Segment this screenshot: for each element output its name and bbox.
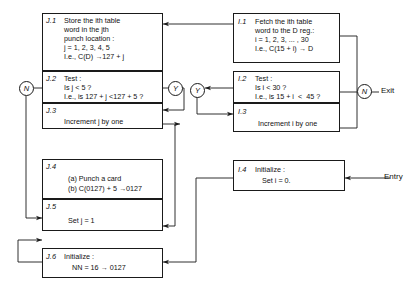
box-i4-line-1: Set i = 0. [262, 176, 291, 185]
box-i3-tag: I.3 [238, 107, 247, 116]
box-j2-tag: J.2 [46, 74, 56, 83]
box-j5-line-0: Set j = 1 [68, 216, 95, 225]
node-n-left: N [19, 81, 34, 96]
box-j2-line-1: Is j < 5 ? [64, 83, 91, 92]
box-j4-line-0: (a) Punch a card [68, 174, 121, 183]
box-j1-line-0: Store the ith table [64, 16, 120, 25]
box-j5-tag: J.5 [46, 202, 56, 211]
box-i2-line-2: I.e., is 15 + i < 45 ? [255, 92, 320, 101]
box-i1-line-2: i = 1, 2, 3, ... , 30 [255, 35, 309, 44]
box-i1-line-1: word to the D reg.: [255, 26, 314, 35]
box-j1-line-2: punch location : [64, 34, 114, 43]
box-j6-line-0: Initialize : [64, 252, 94, 261]
box-i1-line-3: I.e., C(15 + i) → D [255, 44, 313, 53]
box-j1-tag: J.1 [46, 16, 56, 25]
box-i4-line-0: Initialize : [255, 165, 285, 174]
box-j3-line-0: Increment j by one [64, 117, 123, 126]
box-i2-line-1: Is i < 30 ? [255, 83, 286, 92]
box-j2-line-2: I.e., is 127 + j <127 + 5 ? [64, 92, 143, 101]
node-n-right: N [357, 84, 372, 99]
node-y-left: Y [168, 81, 183, 96]
box-j4-tag: J.4 [46, 162, 56, 171]
node-y-right: Y [190, 83, 205, 98]
box-j1-line-3: j = 1, 2, 3, 4, 5 [64, 43, 110, 52]
box-j2-line-0: Test : [64, 74, 81, 83]
flowchart-canvas: J.1 Store the ith table word in the jth … [0, 0, 414, 297]
box-i3-line-0: Increment i by one [258, 119, 317, 128]
box-i1-line-0: Fetch the ith table [255, 17, 312, 26]
box-j1-line-4: I.e., C(D) →127 + j [64, 52, 124, 61]
box-i4-tag: I.4 [238, 165, 247, 174]
exit-label: Exit [381, 86, 394, 95]
box-i2-line-0: Test : [255, 74, 272, 83]
box-j4-line-1: (b) C(0127) + 5 →0127 [68, 184, 142, 193]
box-j5 [42, 199, 163, 231]
box-i2-tag: I.2 [238, 74, 247, 83]
entry-label: Entry [384, 172, 403, 181]
box-i1-tag: I.1 [238, 17, 247, 26]
box-j1-line-1: word in the jth [64, 25, 109, 34]
box-j3-tag: J.3 [46, 106, 56, 115]
box-j6-line-1: NN = 16 → 0127 [72, 263, 126, 272]
box-j6-tag: J.6 [46, 252, 56, 261]
